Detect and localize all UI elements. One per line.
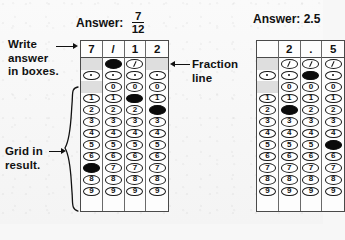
bubble-cell[interactable]: 5 xyxy=(257,139,278,151)
bubble-digit-2[interactable]: 2 xyxy=(126,105,143,115)
bubble-cell[interactable]: 9 xyxy=(146,186,168,198)
grid-column[interactable]: 5012346789 xyxy=(322,41,344,211)
bubble-digit-2[interactable]: 2 xyxy=(105,105,122,115)
bubble-digit-9[interactable]: 9 xyxy=(281,187,298,197)
bubble-filled-/[interactable] xyxy=(105,59,122,69)
bubble-fraction-slash[interactable] xyxy=(281,59,298,69)
bubble-cell[interactable]: 2 xyxy=(301,104,322,116)
bubble-digit-0[interactable]: 0 xyxy=(281,82,298,92)
bubble-cell[interactable]: 6 xyxy=(301,151,322,163)
bubble-cell[interactable]: 8 xyxy=(103,174,124,186)
bubble-digit-6[interactable]: 6 xyxy=(281,152,298,162)
bubble-digit-3[interactable]: 3 xyxy=(83,117,100,127)
bubble-digit-1[interactable]: 1 xyxy=(325,94,342,104)
bubble-cell[interactable]: 5 xyxy=(81,139,102,151)
bubble-digit-8[interactable]: 8 xyxy=(83,175,100,185)
bubble-cell[interactable] xyxy=(279,70,300,82)
bubble-cell[interactable] xyxy=(146,70,168,82)
bubble-digit-5[interactable]: 5 xyxy=(149,140,166,150)
bubble-digit-3[interactable]: 3 xyxy=(105,117,122,127)
bubble-digit-4[interactable]: 4 xyxy=(83,129,100,139)
bubble-cell[interactable]: 0 xyxy=(146,81,168,93)
bubble-cell[interactable]: 7 xyxy=(279,162,300,174)
bubble-cell[interactable]: 6 xyxy=(257,151,278,163)
bubble-digit-4[interactable]: 4 xyxy=(149,129,166,139)
bubble-cell[interactable]: 5 xyxy=(103,139,124,151)
bubble-digit-7[interactable]: 7 xyxy=(105,163,122,173)
bubble-cell[interactable]: 5 xyxy=(125,139,146,151)
bubble-cell[interactable]: 9 xyxy=(81,186,102,198)
bubble-digit-6[interactable]: 6 xyxy=(259,152,276,162)
bubble-digit-8[interactable]: 8 xyxy=(302,175,319,185)
bubble-digit-3[interactable]: 3 xyxy=(302,117,319,127)
bubble-filled-1[interactable] xyxy=(126,94,143,104)
bubble-digit-6[interactable]: 6 xyxy=(83,152,100,162)
bubble-cell[interactable] xyxy=(301,70,322,82)
bubble-digit-0[interactable]: 0 xyxy=(105,82,122,92)
bubble-cell[interactable] xyxy=(301,58,322,70)
answer-box[interactable]: / xyxy=(103,41,124,58)
bubble-digit-6[interactable]: 6 xyxy=(105,152,122,162)
bubble-cell[interactable]: 5 xyxy=(146,139,168,151)
bubble-digit-7[interactable]: 7 xyxy=(281,163,298,173)
bubble-cell[interactable]: 5 xyxy=(279,139,300,151)
bubble-cell[interactable]: 9 xyxy=(322,186,344,198)
bubble-digit-5[interactable]: 5 xyxy=(126,140,143,150)
answer-box[interactable]: 7 xyxy=(81,41,102,58)
bubble-digit-8[interactable]: 8 xyxy=(281,175,298,185)
bubble-digit-1[interactable]: 1 xyxy=(259,94,276,104)
bubble-digit-7[interactable]: 7 xyxy=(302,163,319,173)
bubble-cell[interactable] xyxy=(125,58,146,70)
bubble-cell[interactable]: 7 xyxy=(257,162,278,174)
bubble-cell[interactable]: 2 xyxy=(81,104,102,116)
bubble-cell[interactable]: 2 xyxy=(125,104,146,116)
bubble-digit-9[interactable]: 9 xyxy=(105,187,122,197)
bubble-digit-9[interactable]: 9 xyxy=(126,187,143,197)
bubble-digit-9[interactable]: 9 xyxy=(149,187,166,197)
bubble-digit-1[interactable]: 1 xyxy=(105,94,122,104)
bubble-cell[interactable]: 4 xyxy=(125,128,146,140)
bubble-digit-3[interactable]: 3 xyxy=(281,117,298,127)
bubble-digit-4[interactable]: 4 xyxy=(126,129,143,139)
grid-column[interactable]: .0123456789 xyxy=(301,41,323,211)
bubble-digit-7[interactable]: 7 xyxy=(126,163,143,173)
bubble-cell[interactable]: 1 xyxy=(301,93,322,105)
bubble-digit-6[interactable]: 6 xyxy=(302,152,319,162)
bubble-cell[interactable]: 7 xyxy=(125,162,146,174)
bubble-decimal-point[interactable] xyxy=(105,71,122,81)
bubble-cell[interactable]: 1 xyxy=(279,93,300,105)
bubble-cell[interactable]: 5 xyxy=(301,139,322,151)
bubble-cell[interactable]: 3 xyxy=(279,116,300,128)
bubble-digit-8[interactable]: 8 xyxy=(149,175,166,185)
bubble-cell[interactable]: 0 xyxy=(279,81,300,93)
bubble-cell[interactable]: 9 xyxy=(257,186,278,198)
bubble-cell[interactable] xyxy=(322,139,344,151)
bubble-digit-7[interactable]: 7 xyxy=(149,163,166,173)
bubble-cell[interactable]: 3 xyxy=(322,116,344,128)
bubble-cell[interactable]: 2 xyxy=(322,104,344,116)
bubble-cell[interactable]: 1 xyxy=(322,93,344,105)
bubble-digit-5[interactable]: 5 xyxy=(105,140,122,150)
bubble-cell[interactable]: 3 xyxy=(125,116,146,128)
bubble-cell[interactable]: 4 xyxy=(322,128,344,140)
bubble-cell[interactable]: 8 xyxy=(81,174,102,186)
bubble-cell[interactable]: 8 xyxy=(279,174,300,186)
bubble-cell[interactable] xyxy=(81,58,102,70)
bubble-cell[interactable]: 2 xyxy=(103,104,124,116)
bubble-cell[interactable] xyxy=(257,58,278,70)
bubble-digit-5[interactable]: 5 xyxy=(83,140,100,150)
bubble-digit-6[interactable]: 6 xyxy=(126,152,143,162)
bubble-digit-8[interactable]: 8 xyxy=(259,175,276,185)
bubble-digit-8[interactable]: 8 xyxy=(105,175,122,185)
bubble-cell[interactable]: 0 xyxy=(125,81,146,93)
bubble-digit-3[interactable]: 3 xyxy=(126,117,143,127)
bubble-cell[interactable]: 0 xyxy=(301,81,322,93)
bubble-decimal-point[interactable] xyxy=(325,71,342,81)
bubble-cell[interactable] xyxy=(279,104,300,116)
bubble-cell[interactable] xyxy=(279,58,300,70)
bubble-cell[interactable] xyxy=(146,104,168,116)
bubble-cell[interactable]: 4 xyxy=(81,128,102,140)
bubble-digit-9[interactable]: 9 xyxy=(83,187,100,197)
bubble-digit-7[interactable]: 7 xyxy=(259,163,276,173)
grid-column[interactable]: 712345689 xyxy=(81,41,103,211)
